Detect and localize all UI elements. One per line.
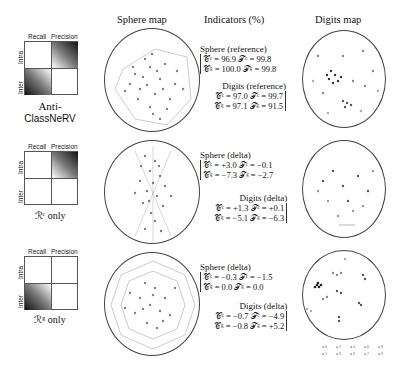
sphere-map-3 <box>104 252 200 356</box>
indicators-row-2-digits: Digits (delta) 𝒞ᶜ = +1.3 𝒯ᶜ = +0.1 𝒞ᵍ = … <box>214 193 287 223</box>
caption-anti: Anti- <box>30 100 70 112</box>
legend-item: ● 1 <box>322 352 336 356</box>
cell-inter-recall <box>25 284 51 310</box>
cell-inter-recall <box>25 69 51 95</box>
sphere-scatter-2 <box>105 141 200 244</box>
sphere-map-2 <box>104 140 200 244</box>
label-recall: Recall <box>28 248 46 255</box>
sphere-scatter-1 <box>105 29 200 132</box>
label-inter: Inter <box>17 190 24 203</box>
caption-classnerv: ClassNeRV <box>20 113 80 124</box>
caption-rg-only: ℛᵍ only <box>20 314 80 325</box>
label-inter: Inter <box>17 81 24 94</box>
caption-rc-only: ℛᶜ only <box>20 210 80 221</box>
legend-item: ● 0 <box>322 345 336 349</box>
digits-legend: ● 0 ● 2 ● 4 ● 6 ● 8 ● 1 ● 3 ● 5 ● 7 ● 9 <box>322 345 392 356</box>
cell-intra-precision <box>52 152 78 178</box>
sphere-scatter-3 <box>105 253 200 356</box>
legend-item: ● 2 <box>336 345 350 349</box>
legend-item: ● 9 <box>378 352 392 356</box>
digits-map-1 <box>302 30 386 128</box>
label-inter: Inter <box>17 295 24 308</box>
digits-map-3 <box>302 250 386 340</box>
cell-intra-precision <box>52 42 78 68</box>
label-precision: Precision <box>51 33 78 40</box>
header-indicators: Indicators (%) <box>204 14 264 25</box>
header-digits-map: Digits map <box>315 14 361 25</box>
label-precision: Precision <box>51 248 78 255</box>
header-sphere-map: Sphere map <box>117 14 167 25</box>
label-intra: Intra <box>17 161 24 174</box>
legend-item: ● 8 <box>378 345 392 349</box>
digits-scatter-1 <box>303 31 386 128</box>
digits-scatter-3 <box>303 251 386 340</box>
label-intra: Intra <box>17 51 24 64</box>
legend-item: ● 6 <box>364 345 378 349</box>
legend-item: ● 3 <box>336 352 350 356</box>
digits-map-2 <box>302 140 386 238</box>
legend-item: ● 5 <box>350 352 364 356</box>
figure: Sphere map Indicators (%) Digits map Rec… <box>0 0 401 370</box>
legend-item: ● 4 <box>350 345 364 349</box>
indicators-row-1-digits: Digits (reference) 𝒞ᶜ = 97.0 𝒯ᶜ = 99.7 𝒞… <box>214 81 286 111</box>
indicators-row-1-sphere: Sphere (reference) 𝒞ᶜ = 96.9 𝒯ᶜ = 99.8 𝒞… <box>200 44 276 74</box>
indicators-row-2-sphere: Sphere (delta) 𝒞ᶜ = +3.0 𝒯ᶜ = −0.1 𝒞ᵍ = … <box>200 150 273 180</box>
label-recall: Recall <box>28 143 46 150</box>
indicators-row-3-sphere: Sphere (delta) 𝒞ᶜ = −0.3 𝒯ᶜ = −1.5 𝒞ᵍ = … <box>200 262 272 292</box>
label-recall: Recall <box>28 33 46 40</box>
sphere-map-1 <box>104 28 200 132</box>
label-precision: Precision <box>51 143 78 150</box>
label-intra: Intra <box>17 266 24 279</box>
digits-scatter-2 <box>303 141 386 238</box>
legend-item: ● 7 <box>364 352 378 356</box>
indicators-row-3-digits: Digits (delta) 𝒞ᶜ = −0.7 𝒯ᶜ = −4.9 𝒞ᵍ = … <box>214 301 287 331</box>
